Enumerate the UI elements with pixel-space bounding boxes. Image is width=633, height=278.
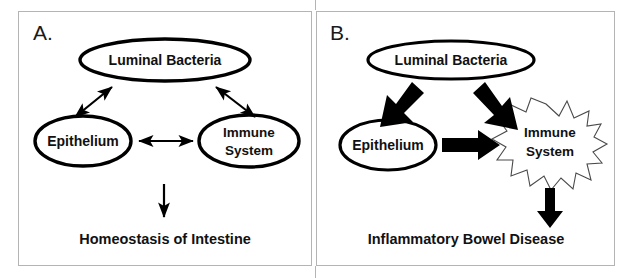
panel-b-node-luminal-bacteria: Luminal Bacteria [368, 41, 534, 79]
panel-b-letter: B. [330, 21, 350, 44]
luminal-bacteria-label: Luminal Bacteria [109, 52, 222, 68]
panel-a-letter: A. [33, 21, 53, 44]
epithelium-label: Epithelium [47, 133, 119, 149]
panel-b-arrow-bacteria-immune [473, 82, 518, 130]
panel-b-arrow-epithelium-immune [442, 130, 500, 160]
panel-a-outcome-label: Homeostasis of Intestine [79, 231, 251, 247]
panel-a-node-epithelium: Epithelium [35, 116, 131, 166]
panel-b-node-epithelium: Epithelium [340, 120, 436, 170]
immune-system-label-line2: System [225, 143, 273, 158]
immune-system-ellipse [199, 115, 299, 167]
diagram-canvas: A. Luminal Bacteria Epithelium Immune Sy… [0, 0, 633, 278]
panel-a-arrow-bacteria-immune [216, 87, 255, 117]
immune-system-label-line2: System [526, 144, 574, 159]
immune-system-label-line1: Immune [223, 125, 275, 140]
panel-b-arrow-bacteria-epithelium [380, 82, 424, 127]
panel-a-arrow-bacteria-epithelium [75, 87, 112, 117]
panel-b-outcome-label: Inflammatory Bowel Disease [368, 231, 565, 247]
epithelium-label: Epithelium [352, 137, 424, 153]
panel-a-node-luminal-bacteria: Luminal Bacteria [80, 39, 250, 81]
immune-system-label-line1: Immune [524, 125, 576, 140]
panel-a-node-immune-system: Immune System [199, 115, 299, 167]
figure-root: A. Luminal Bacteria Epithelium Immune Sy… [0, 0, 633, 278]
panel-b-arrow-to-outcome [537, 188, 563, 228]
luminal-bacteria-label: Luminal Bacteria [395, 52, 508, 68]
